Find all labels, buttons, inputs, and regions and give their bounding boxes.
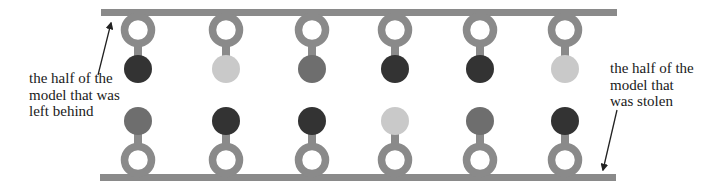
- top-backbone-bar: [101, 9, 617, 16]
- ring-icon: [125, 147, 152, 174]
- top-bead-unit: [124, 17, 152, 84]
- bottom-bead-unit: [551, 107, 579, 174]
- bead-light: [551, 55, 579, 83]
- bottom-strand: [100, 107, 616, 181]
- bottom-bead-unit: [466, 107, 494, 174]
- ring-icon: [382, 17, 409, 44]
- ring-icon: [299, 147, 326, 174]
- left-label-line: the half of the: [29, 70, 120, 87]
- left-label-line: left behind: [29, 103, 120, 120]
- top-strand: [101, 9, 617, 83]
- bead-dark: [124, 55, 152, 83]
- bottom-bead-unit: [381, 107, 409, 174]
- bead-dark: [466, 55, 494, 83]
- left-label-line: model that was: [29, 87, 120, 104]
- ring-icon: [213, 17, 240, 44]
- bead-medium: [124, 107, 152, 135]
- ring-icon: [552, 17, 579, 44]
- bead-dark: [381, 55, 409, 83]
- top-bead-unit: [381, 17, 409, 84]
- ring-icon: [552, 147, 579, 174]
- bottom-backbone-bar: [100, 174, 616, 181]
- ring-icon: [467, 17, 494, 44]
- bottom-bead-unit: [298, 107, 326, 174]
- bead-light: [381, 107, 409, 135]
- bead-medium: [298, 55, 326, 83]
- ring-icon: [213, 147, 240, 174]
- bead-dark: [551, 107, 579, 135]
- bead-dark: [212, 107, 240, 135]
- right-arrow-icon: [603, 110, 617, 170]
- stolen-label: the half of the model that was stolen: [610, 60, 694, 110]
- right-label-line: model that: [610, 77, 694, 94]
- ring-icon: [382, 147, 409, 174]
- left-behind-label: the half of the model that was left behi…: [29, 70, 120, 120]
- bottom-bead-unit: [124, 107, 152, 174]
- right-label-line: the half of the: [610, 60, 694, 77]
- top-bead-unit: [298, 17, 326, 84]
- ring-icon: [299, 17, 326, 44]
- top-bead-unit: [551, 17, 579, 84]
- strand-diagram: the half of the model that was left behi…: [0, 0, 707, 192]
- ring-icon: [125, 17, 152, 44]
- bead-light: [212, 55, 240, 83]
- bottom-bead-unit: [212, 107, 240, 174]
- left-arrow-icon: [98, 23, 111, 75]
- bead-medium: [466, 107, 494, 135]
- ring-icon: [467, 147, 494, 174]
- bead-dark: [298, 107, 326, 135]
- top-bead-unit: [212, 17, 240, 84]
- top-bead-unit: [466, 17, 494, 84]
- right-label-line: was stolen: [610, 93, 694, 110]
